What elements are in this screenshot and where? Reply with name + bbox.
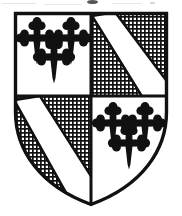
- image-canvas: [0, 0, 182, 216]
- coat-of-arms-illustration: [0, 0, 182, 216]
